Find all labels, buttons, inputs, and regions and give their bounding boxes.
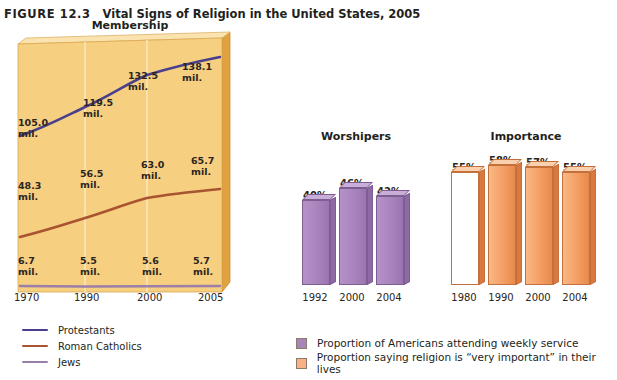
legend-swatch-roman-catholics [22, 345, 48, 348]
value-label-protestants-2000: 132.5 mil. [128, 71, 158, 92]
axis-label-line-2000: 2000 [137, 292, 162, 303]
axis-label-line-1990: 1990 [74, 292, 99, 303]
bar-category-importance-2000: 2000 [521, 292, 555, 303]
importance-bar-chart: Importance 55% 1980 58% 1990 57% 2000 55… [450, 130, 602, 305]
bar-importance-2000[interactable] [525, 167, 553, 285]
axis-label-line-2005: 2005 [198, 292, 223, 303]
legend-swatch-jews [22, 361, 48, 364]
bar-worshipers-2000[interactable] [339, 188, 367, 285]
value-label-catholics-2000: 63.0 mil. [141, 160, 164, 181]
bar-importance-2004[interactable] [562, 172, 590, 285]
legend-item-jews: Jews [22, 354, 142, 370]
bar-category-worshipers-2004: 2004 [372, 292, 406, 303]
legend-item-protestants: Protestants [22, 322, 142, 338]
bar-chart-legend: Proportion of Americans attending weekly… [296, 333, 617, 373]
legend-label-jews: Jews [58, 357, 81, 368]
value-label-jews-2005: 5.7 mil. [193, 256, 213, 277]
bar-importance-1980[interactable] [451, 172, 479, 285]
value-label-protestants-2005: 138.1 mil. [182, 62, 212, 83]
value-label-catholics-1990: 56.5 mil. [80, 169, 103, 190]
legend-item-roman-catholics: Roman Catholics [22, 338, 142, 354]
value-label-catholics-1970: 48.3 mil. [18, 181, 41, 202]
bar-category-importance-1990: 1990 [484, 292, 518, 303]
legend-swatch-protestants [22, 329, 48, 332]
legend-label-protestants: Protestants [58, 325, 115, 336]
legend-item-weekly-service: Proportion of Americans attending weekly… [296, 333, 617, 353]
value-label-catholics-2005: 65.7 mil. [191, 156, 214, 177]
bar-importance-1990[interactable] [488, 165, 516, 285]
importance-chart-title: Importance [450, 130, 602, 143]
legend-label-weekly-service: Proportion of Americans attending weekly… [317, 337, 578, 349]
legend-swatch-weekly-service [296, 338, 307, 349]
legend-swatch-very-important [296, 358, 307, 369]
value-label-jews-1990: 5.5 mil. [80, 256, 100, 277]
value-label-jews-1970: 6.7 mil. [18, 256, 38, 277]
figure-canvas: FIGURE 12.3Vital Signs of Religion in th… [0, 0, 617, 380]
worshipers-chart-title: Worshipers [300, 130, 412, 143]
legend-label-very-important: Proportion saying religion is “very impo… [317, 351, 617, 375]
bar-category-worshipers-1992: 1992 [298, 292, 332, 303]
legend-label-roman-catholics: Roman Catholics [58, 341, 142, 352]
value-label-protestants-1970: 105.0 mil. [18, 118, 48, 139]
worshipers-bar-chart: Worshipers 40% 1992 46% 2000 42% 2004 [300, 130, 412, 305]
line-chart-legend: Protestants Roman Catholics Jews [22, 322, 142, 370]
series-line-jews [20, 286, 220, 287]
value-label-jews-2000: 5.6 mil. [142, 256, 162, 277]
bar-category-importance-1980: 1980 [447, 292, 481, 303]
bar-worshipers-1992[interactable] [302, 200, 330, 285]
figure-header: FIGURE 12.3Vital Signs of Religion in th… [4, 3, 420, 22]
bar-worshipers-2004[interactable] [376, 196, 404, 285]
legend-item-very-important: Proportion saying religion is “very impo… [296, 353, 617, 373]
bar-category-importance-2004: 2004 [558, 292, 592, 303]
value-label-protestants-1990: 119.5 mil. [83, 98, 113, 119]
bar-category-worshipers-2000: 2000 [335, 292, 369, 303]
panel-side-face [222, 32, 230, 292]
axis-label-line-1970: 1970 [14, 292, 39, 303]
